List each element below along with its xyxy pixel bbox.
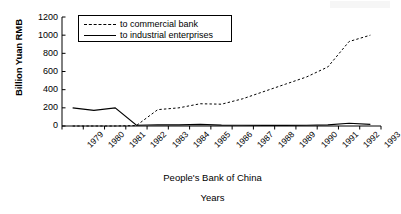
legend-swatch-solid-icon: [83, 31, 117, 39]
chart-legend: to commercial bank to industrial enterpr…: [78, 15, 232, 42]
x-tick-label: 1983: [170, 130, 190, 150]
x-tick-label: 1993: [383, 130, 401, 150]
legend-label: to commercial bank: [117, 19, 198, 29]
y-axis-title: Billion Yuan RMB: [13, 3, 24, 113]
source-caption: People's Bank of China: [12, 172, 401, 183]
y-tick-label: 200: [28, 103, 58, 112]
scan-artifact: [330, 1, 390, 8]
x-tick-label: 1992: [362, 130, 382, 150]
y-tick-label: 800: [28, 49, 58, 58]
series-line-to-industrial-enterprises: [73, 108, 371, 126]
x-tick-label: 1979: [85, 130, 105, 150]
legend-swatch-dashed-icon: [83, 20, 117, 28]
y-tick-label: 400: [28, 85, 58, 94]
x-tick-label: 1986: [234, 130, 254, 150]
x-tick-label: 1991: [340, 130, 360, 150]
x-tick-label: 1981: [128, 130, 148, 150]
chart-figure: Billion Yuan RMB 1200 1000 800 600 400 2…: [0, 0, 401, 214]
x-tick-label: 1985: [213, 130, 233, 150]
y-tick-label: 1200: [28, 13, 58, 22]
x-tick-label: 1989: [298, 130, 318, 150]
x-tick-label: 1982: [149, 130, 169, 150]
x-tick-label: 1990: [319, 130, 339, 150]
legend-label: to industrial enterprises: [117, 30, 213, 40]
y-tick-label: 0: [28, 121, 58, 130]
x-tick-label: 1980: [106, 130, 126, 150]
y-tick-label: 600: [28, 67, 58, 76]
x-tick-label: 1988: [277, 130, 297, 150]
legend-entry-to-industrial-enterprises: to industrial enterprises: [83, 29, 231, 40]
x-axis-title: Years: [12, 192, 401, 203]
x-axis-tick-labels: 1979198019811982198319841985198619871988…: [62, 128, 381, 168]
series-line-to-commercial-bank: [73, 35, 371, 126]
y-tick-marks: [62, 17, 66, 126]
legend-entry-to-commercial-bank: to commercial bank: [83, 18, 231, 29]
x-tick-label: 1987: [255, 130, 275, 150]
x-tick-label: 1984: [191, 130, 211, 150]
y-tick-label: 1000: [28, 31, 58, 40]
